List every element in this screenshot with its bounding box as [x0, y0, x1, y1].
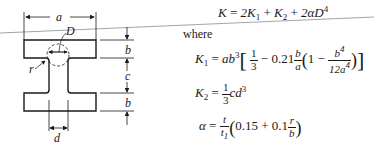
k2-lhs-sub: 2 [204, 92, 209, 102]
eq-k-term2: K [274, 5, 283, 20]
equation-k2: K2 = 13cd3 [195, 82, 246, 106]
k2-equals: = [211, 85, 218, 100]
k1-coef: ab [222, 51, 235, 66]
k1-bracket-open: [ [240, 47, 247, 72]
i-section-diagram: a D r b c b d [0, 0, 180, 156]
k1-bracket-close: ] [357, 47, 364, 72]
alpha-frac-r-over-b: rb [288, 115, 296, 139]
k2-rhs: cd [230, 85, 242, 100]
alpha-coef-01: 0.1 [272, 118, 288, 133]
equation-alpha: α = tt1(0.15 + 0.1rb) [199, 114, 302, 141]
eq-k-term1-sub: 1 [256, 12, 261, 22]
label-D: D [65, 24, 75, 38]
alpha-frac-t-over-t1: tt1 [220, 114, 230, 141]
eq-k-term2-sub: 2 [283, 12, 288, 22]
alpha-plus: + [261, 118, 268, 133]
k1-equals: = [211, 51, 218, 66]
alpha-equals: = [209, 118, 216, 133]
eq-k-plus1: + [263, 5, 270, 20]
section-outline [24, 40, 96, 111]
eq-k-lhs: K [218, 5, 227, 20]
k1-frac-one-third: 13 [250, 48, 258, 72]
eq-k-term3-sup: 4 [324, 4, 329, 14]
k2-frac-one-third: 13 [222, 82, 230, 106]
label-r: r [29, 62, 34, 76]
k2-rhs-sup: 3 [242, 84, 247, 94]
equation-k1: K1 = ab3[ 13 − 0.21ba(1 − b412a4)] [195, 45, 364, 75]
where-label: where [183, 27, 212, 42]
label-b-bottom: b [125, 96, 131, 110]
k1-frac-b-over-a: ba [294, 48, 302, 72]
equation-k: K = 2K1 + K2 + 2αD4 [218, 5, 328, 22]
eq-k-term1: 2K [241, 5, 256, 20]
alpha-lhs: α [199, 118, 206, 133]
eq-k-term3: 2αD [301, 5, 324, 20]
eq-k-plus2: + [290, 5, 297, 20]
k1-frac-b4-over-12a4: b412a4 [328, 45, 351, 75]
label-b-top: b [125, 43, 131, 57]
label-d: d [54, 131, 61, 145]
k1-one: 1 [308, 51, 315, 66]
k1-lhs-sub: 1 [204, 58, 209, 68]
label-a: a [56, 10, 62, 24]
alpha-coef-015: 0.15 [235, 118, 258, 133]
eq-k-equals: = [230, 5, 237, 20]
k1-lhs: K [195, 51, 204, 66]
label-c: c [125, 69, 131, 83]
alpha-paren-close: ) [296, 118, 302, 138]
k1-minus1: − [261, 51, 268, 66]
k1-minus2: − [317, 51, 324, 66]
k1-coef-021: 0.21 [271, 51, 294, 66]
k2-lhs: K [195, 85, 204, 100]
